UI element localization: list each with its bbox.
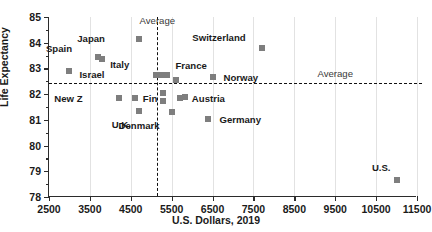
y-axis-minor-tick — [46, 56, 49, 57]
y-axis-tick — [44, 94, 49, 95]
data-point-marker — [259, 45, 265, 51]
data-point-label: Spain — [46, 43, 72, 54]
y-axis-minor-tick — [46, 184, 49, 185]
x-axis-tick-label: 10500 — [362, 203, 391, 215]
data-point-marker — [394, 177, 400, 183]
x-axis-tick — [253, 196, 254, 201]
plot-area: 2500350045005500650075008500950010500115… — [48, 17, 416, 197]
data-point-marker — [173, 77, 179, 83]
y-axis-minor-tick — [46, 158, 49, 159]
vertical-average-label: Average — [140, 15, 176, 26]
x-axis-tick-label: 3500 — [78, 203, 101, 215]
data-point-marker — [116, 95, 122, 101]
x-axis-tick — [335, 196, 336, 201]
y-axis-title: Life Expectancy — [0, 27, 10, 107]
y-axis-tick — [44, 17, 49, 18]
y-axis-tick-label: 78 — [29, 191, 41, 203]
data-point-label: Norway — [224, 72, 259, 83]
y-axis-tick-label: 84 — [29, 37, 41, 49]
gridline-vertical — [213, 17, 214, 196]
y-axis-minor-tick — [46, 30, 49, 31]
data-point-marker — [132, 95, 138, 101]
data-point-label: Switzerland — [192, 32, 245, 43]
gridline-vertical — [417, 17, 418, 196]
gridline-vertical — [253, 17, 254, 196]
data-point-marker — [136, 36, 142, 42]
data-point-marker — [160, 98, 166, 104]
y-axis-tick-label: 81 — [29, 114, 41, 126]
y-axis-tick — [44, 120, 49, 121]
data-point-label: Japan — [77, 33, 105, 44]
data-point-marker — [205, 116, 211, 122]
gridline-vertical — [335, 17, 336, 196]
y-axis-tick — [44, 68, 49, 69]
y-axis-tick-label: 79 — [29, 165, 41, 177]
y-axis-minor-tick — [46, 133, 49, 134]
data-point-label: Israel — [79, 69, 104, 80]
y-axis-minor-tick — [46, 81, 49, 82]
y-axis-tick — [44, 197, 49, 198]
horizontal-average — [49, 83, 422, 84]
gridline-vertical — [90, 17, 91, 196]
data-point-label: Fin — [143, 93, 157, 104]
gridline-vertical — [294, 17, 295, 196]
y-axis-minor-tick — [46, 107, 49, 108]
y-axis-tick-label: 85 — [29, 11, 41, 23]
y-axis-tick — [44, 146, 49, 147]
x-axis-tick — [90, 196, 91, 201]
gridline-vertical — [131, 17, 132, 196]
data-point-marker — [160, 90, 166, 96]
x-axis-tick — [213, 196, 214, 201]
x-axis-tick-label: 2500 — [37, 203, 60, 215]
x-axis-tick — [376, 196, 377, 201]
data-point-marker — [66, 68, 72, 74]
data-point-label: Denmark — [119, 120, 160, 131]
data-point-label: Austria — [192, 93, 225, 104]
x-axis-tick-label: 7500 — [242, 203, 265, 215]
data-point-marker — [99, 56, 105, 62]
vertical-average — [157, 17, 158, 196]
y-axis-tick-label: 83 — [29, 62, 41, 74]
data-point-marker — [169, 109, 175, 115]
gridline-vertical — [172, 17, 173, 196]
x-axis-tick — [131, 196, 132, 201]
data-point-label: France — [175, 60, 206, 71]
x-axis-tick-label: 11500 — [403, 203, 432, 215]
x-axis-tick-label: 9500 — [324, 203, 347, 215]
x-axis-tick — [172, 196, 173, 201]
data-point-marker — [164, 72, 170, 78]
x-axis-title: U.S. Dollars, 2019 — [0, 214, 432, 226]
data-point-label: U.S. — [372, 162, 391, 173]
data-point-marker — [136, 108, 142, 114]
x-axis-tick-label: 5500 — [160, 203, 183, 215]
data-point-label: Italy — [110, 59, 129, 70]
y-axis-tick-label: 80 — [29, 140, 41, 152]
x-axis-tick-label: 8500 — [283, 203, 306, 215]
data-point-label: Germany — [219, 114, 261, 125]
data-point-marker — [182, 94, 188, 100]
y-axis-tick-label: 82 — [29, 88, 41, 100]
horizontal-average-label: Average — [317, 68, 353, 79]
x-axis-tick — [294, 196, 295, 201]
data-point-marker — [153, 72, 159, 78]
x-axis-tick — [417, 196, 418, 201]
x-axis-tick-label: 4500 — [119, 203, 142, 215]
y-axis-tick — [44, 171, 49, 172]
data-point-label: New Z — [54, 93, 82, 104]
scatter-chart-figure: Life Expectancy U.S. Dollars, 2019 25003… — [0, 0, 432, 232]
x-axis-tick-label: 6500 — [201, 203, 224, 215]
x-axis-tick — [49, 196, 50, 201]
data-point-marker — [210, 74, 216, 80]
